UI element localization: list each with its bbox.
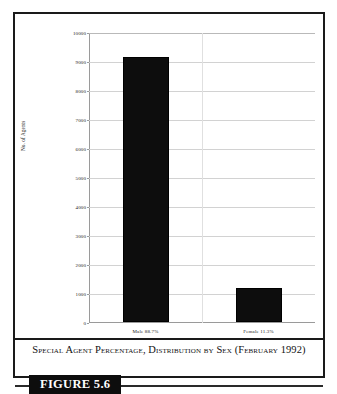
y-tick-mark [87, 33, 89, 34]
y-tick-mark [87, 149, 89, 150]
y-tick-label: 10000 [73, 31, 86, 36]
y-tick-mark [87, 236, 89, 237]
y-tick-label: 0 [83, 321, 86, 326]
y-tick-mark [87, 91, 89, 92]
y-tick-label: 8000 [76, 89, 86, 94]
caption-divider [15, 338, 323, 340]
y-tick-label: 2000 [76, 263, 86, 268]
chart-area: No. of Agents 01000200030004000500060007… [15, 14, 323, 338]
figure-number-badge: FIGURE 5.6 [29, 375, 121, 394]
y-axis-title: No. of Agents [20, 139, 26, 151]
y-tick-mark [87, 120, 89, 121]
x-axis-category-label: Female 11.3% [243, 329, 274, 335]
figure-caption: Special Agent Percentage, Distribution b… [15, 342, 323, 357]
y-tick-label: 9000 [76, 60, 86, 65]
y-tick-mark [87, 294, 89, 295]
y-tick-mark [87, 62, 89, 63]
plot-region: 0100020003000400050006000700080009000100… [89, 33, 315, 323]
y-tick-label: 7000 [76, 118, 86, 123]
y-tick-mark [87, 323, 89, 324]
y-tick-mark [87, 265, 89, 266]
y-tick-label: 4000 [76, 205, 86, 210]
y-tick-mark [87, 207, 89, 208]
y-tick-label: 5000 [76, 176, 86, 181]
bar [236, 288, 282, 322]
y-tick-mark [87, 178, 89, 179]
x-axis-category-label: Male 88.7% [133, 329, 159, 335]
category-divider [202, 33, 203, 323]
y-tick-label: 6000 [76, 147, 86, 152]
figure-container: No. of Agents 01000200030004000500060007… [0, 0, 337, 394]
figure-frame: No. of Agents 01000200030004000500060007… [13, 12, 325, 378]
bar [123, 57, 169, 322]
y-tick-label: 1000 [76, 292, 86, 297]
y-tick-label: 3000 [76, 234, 86, 239]
